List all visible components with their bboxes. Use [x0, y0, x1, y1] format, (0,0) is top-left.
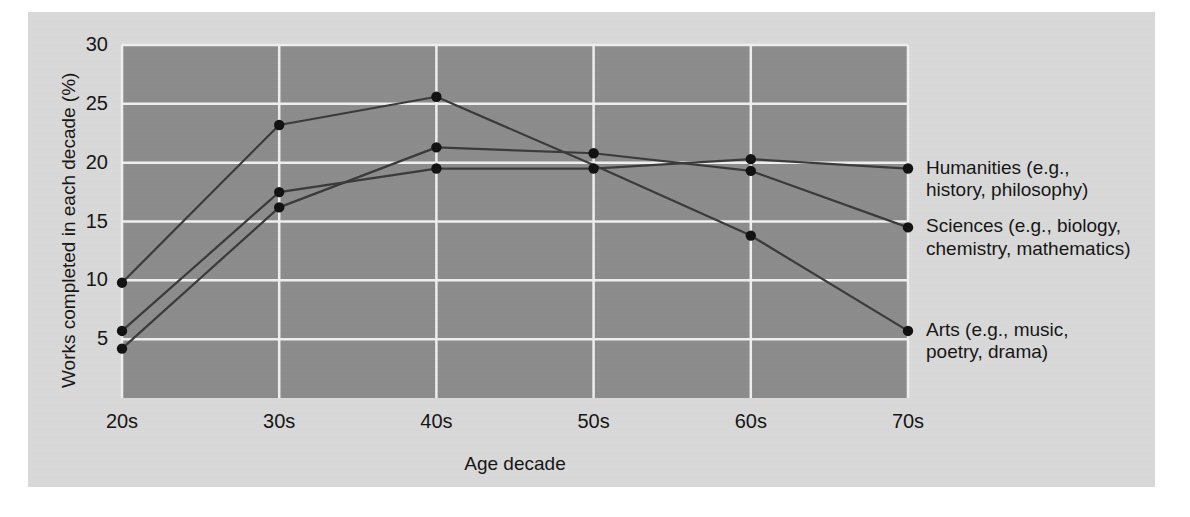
y-tick-label: 10 [60, 268, 108, 291]
x-tick-label: 50s [554, 410, 634, 433]
data-point-marker [117, 277, 127, 287]
series-label-line-1: Sciences (e.g., biology, [926, 215, 1130, 237]
series-label-sciences: Sciences (e.g., biology,chemistry, mathe… [926, 215, 1130, 260]
figure-panel: Works completed in each decade (%) Age d… [28, 12, 1155, 487]
x-tick-label: 20s [82, 410, 162, 433]
series-label-arts: Arts (e.g., music,poetry, drama) [926, 319, 1069, 364]
series-label-line-2: chemistry, mathematics) [926, 238, 1130, 260]
data-point-marker [117, 343, 127, 353]
x-tick-label: 30s [239, 410, 319, 433]
data-point-marker [903, 163, 913, 173]
x-axis-title: Age decade [122, 453, 908, 475]
data-point-marker [588, 148, 598, 158]
series-label-line-2: poetry, drama) [926, 341, 1069, 363]
series-label-line-2: history, philosophy) [926, 179, 1088, 201]
y-tick-label: 5 [60, 327, 108, 350]
data-point-marker [588, 163, 598, 173]
data-point-marker [274, 202, 284, 212]
y-tick-label: 15 [60, 210, 108, 233]
series-label-line-1: Arts (e.g., music, [926, 319, 1069, 341]
y-tick-label: 30 [60, 33, 108, 56]
data-point-marker [903, 326, 913, 336]
series-label-humanities: Humanities (e.g.,history, philosophy) [926, 157, 1088, 202]
y-tick-label: 25 [60, 92, 108, 115]
data-point-marker [431, 163, 441, 173]
x-tick-label: 40s [396, 410, 476, 433]
data-point-marker [431, 92, 441, 102]
y-tick-label: 20 [60, 151, 108, 174]
data-point-marker [274, 120, 284, 130]
data-point-marker [746, 230, 756, 240]
data-point-marker [746, 166, 756, 176]
x-tick-label: 70s [868, 410, 948, 433]
data-point-marker [903, 222, 913, 232]
data-point-marker [117, 326, 127, 336]
data-point-marker [274, 187, 284, 197]
data-point-marker [746, 154, 756, 164]
x-tick-label: 60s [711, 410, 791, 433]
series-label-line-1: Humanities (e.g., [926, 157, 1088, 179]
data-point-marker [431, 142, 441, 152]
